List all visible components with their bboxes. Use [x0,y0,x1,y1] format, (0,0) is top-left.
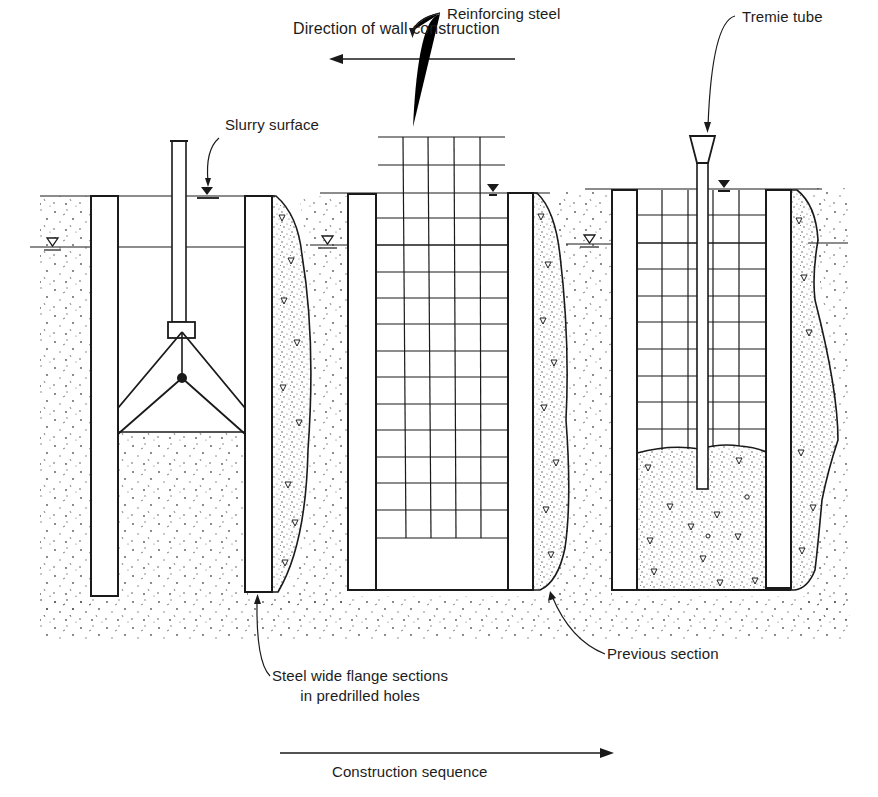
steel-section [508,193,533,590]
stage-2-reinforcing [310,12,569,590]
reinforcing-cage [376,137,508,538]
steel-section [348,194,376,590]
clamshell-bucket [118,141,245,434]
sequence-label: Construction sequence [332,763,488,780]
direction-label: Direction of wall construction [293,20,500,38]
reinforcing-steel-label: Reinforcing steel [447,5,560,22]
steel-section [245,196,272,592]
steel-sections-label: Steel wide flange sections in predrilled… [272,666,448,706]
tremie-tube-label: Tremie tube [742,8,823,25]
steel-sections-line1: Steel wide flange sections [272,666,448,686]
previous-section-label: Previous section [607,645,719,662]
steel-section [91,196,118,596]
slurry-surface-label: Slurry surface [225,116,319,133]
steel-section [612,190,637,590]
sequence-arrow [280,748,614,758]
steel-section [766,190,791,588]
steel-sections-line2: in predrilled holes [272,686,448,706]
